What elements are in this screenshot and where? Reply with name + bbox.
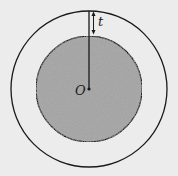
center-point — [87, 87, 90, 90]
thickness-label: t — [98, 14, 104, 29]
diagram-canvas: t O — [0, 0, 178, 176]
thickness-arrow — [92, 12, 96, 35]
center-label: O — [75, 83, 86, 98]
